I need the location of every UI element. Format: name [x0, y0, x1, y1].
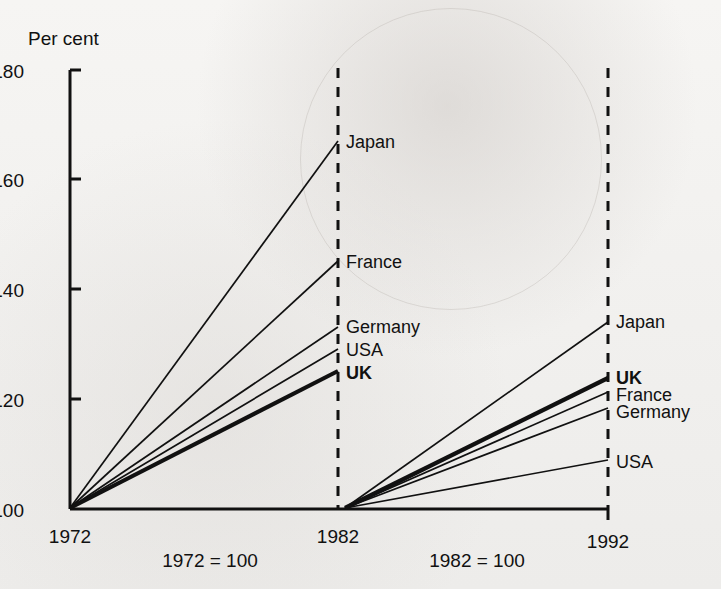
- x-tick-label-1992: 1992: [587, 531, 629, 552]
- caption-right: 1982 = 100: [429, 550, 525, 571]
- series-line-japan-left: [70, 141, 338, 508]
- series-line-uk-right: [345, 378, 608, 508]
- chart-page: Per cent 180 160 140 120 100 Japan: [0, 0, 721, 589]
- series-group-right: [345, 322, 608, 508]
- series-line-france-left: [70, 261, 338, 508]
- series-group-left: [70, 141, 338, 508]
- series-label-japan-left: Japan: [346, 132, 395, 152]
- x-tick-label-1972: 1972: [49, 526, 91, 547]
- series-label-usa-right: USA: [616, 452, 653, 472]
- series-label-japan-right: Japan: [616, 312, 665, 332]
- series-line-france-right: [345, 392, 608, 508]
- x-tick-label-1982-left: 1982: [317, 526, 359, 547]
- series-label-germany-right: Germany: [616, 402, 690, 422]
- y-tick-label-160: 160: [0, 170, 24, 191]
- y-tick-label-140: 140: [0, 280, 24, 301]
- line-chart: Per cent 180 160 140 120 100 Japan: [0, 0, 721, 589]
- series-line-usa-left: [70, 349, 338, 508]
- series-label-uk-left: UK: [346, 363, 372, 383]
- series-line-uk-left: [70, 371, 338, 508]
- caption-left: 1972 = 100: [162, 550, 258, 571]
- y-tick-label-100: 100: [0, 500, 24, 521]
- series-label-germany-left: Germany: [346, 317, 420, 337]
- series-label-usa-left: USA: [346, 340, 383, 360]
- series-label-france-left: France: [346, 252, 402, 272]
- series-line-usa-right: [345, 460, 608, 508]
- y-tick-label-180: 180: [0, 61, 24, 82]
- y-tick-label-120: 120: [0, 390, 24, 411]
- series-line-germany-right: [345, 408, 608, 508]
- y-axis-title: Per cent: [28, 28, 99, 49]
- series-line-japan-right: [345, 322, 608, 508]
- series-line-germany-left: [70, 327, 338, 508]
